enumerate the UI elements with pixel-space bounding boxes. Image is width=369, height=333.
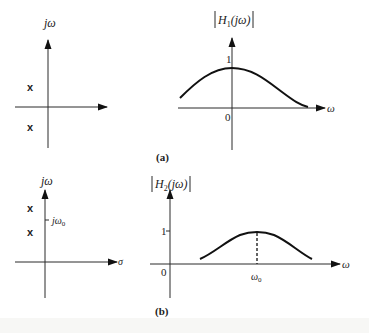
frequency-axis-label: ω bbox=[342, 258, 350, 270]
pole-marker-lower: x bbox=[27, 121, 34, 133]
tick-one-label: 1 bbox=[161, 225, 167, 237]
caption-b: (b) bbox=[155, 305, 169, 318]
tick-zero-label: 0 bbox=[161, 266, 167, 278]
magnitude-title: H2(jω) bbox=[154, 177, 187, 193]
magnitude-title: H1(jω) bbox=[217, 13, 250, 29]
figure-a-magnitude-plot: H1(jω) 1 0 ω bbox=[178, 11, 335, 150]
pole-marker-upper: x bbox=[27, 202, 34, 214]
real-axis-label: σ bbox=[118, 256, 124, 267]
figure-canvas: jω x x H1(jω) 1 0 ω (a) jω σ jω0 x x bbox=[0, 0, 369, 333]
pole-marker-upper: x bbox=[27, 81, 34, 93]
caption-a: (a) bbox=[156, 151, 169, 164]
figure-b-pole-zero-plot: jω σ jω0 x x bbox=[15, 174, 124, 298]
imaginary-axis-label: jω bbox=[42, 16, 56, 30]
tick-one-label: 1 bbox=[226, 53, 232, 65]
bandpass-response-curve bbox=[200, 232, 312, 259]
jw0-tick-label: jω0 bbox=[50, 215, 66, 228]
tick-zero-label: 0 bbox=[225, 111, 231, 123]
figure-b-magnitude-plot: H2(jω) 1 0 ω0 ω bbox=[150, 176, 350, 298]
imaginary-axis-label: jω bbox=[39, 174, 53, 188]
peak-frequency-label: ω0 bbox=[251, 271, 262, 284]
pole-marker-lower: x bbox=[27, 226, 34, 238]
frequency-axis-label: ω bbox=[327, 102, 335, 114]
lowpass-response-curve bbox=[180, 68, 308, 107]
figure-a-pole-zero-plot: jω x x bbox=[15, 16, 107, 148]
